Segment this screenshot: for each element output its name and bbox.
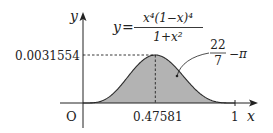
origin-label: O [66,109,77,124]
x-axis-label: x [247,108,255,124]
x-tick-label-1: 1 [231,110,239,124]
y-tick-label-peak: 0.0031554 [15,49,80,63]
y-axis-label: y [69,8,79,24]
formula-equals: = [122,19,134,35]
formula-denominator: 1+x² [153,30,182,44]
formula-numerator: x⁴(1−x)⁴ [143,11,193,25]
function-formula: y = x⁴(1−x)⁴ 1+x² [112,11,203,44]
annotation-dot [176,75,179,78]
annotation-suffix: −π [229,47,248,61]
chart: y x O 0.0031554 0.47581 1 y = x⁴(1−x)⁴ 1… [0,0,273,133]
annotation-denominator: 7 [214,54,222,68]
area-annotation: 22 7 −π [176,38,248,77]
annotation-numerator: 22 [210,38,225,52]
annotation-leader-line [177,53,209,76]
shaded-area [83,55,235,103]
formula-lhs: y [112,19,122,35]
x-tick-label-peak: 0.47581 [133,110,183,124]
